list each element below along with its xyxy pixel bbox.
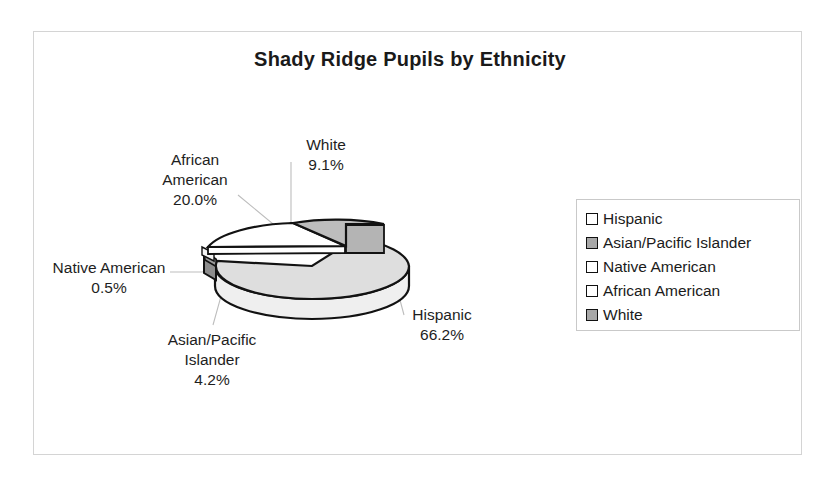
legend-label-african-american: African American — [603, 282, 720, 300]
data-label-asian-name-line1: Asian/Pacific — [142, 330, 282, 350]
data-label-hispanic-name: Hispanic — [392, 305, 492, 325]
data-label-white-pct: 9.1% — [281, 155, 371, 175]
data-label-hispanic: Hispanic 66.2% — [392, 305, 492, 345]
data-label-asian-pacific: Asian/Pacific Islander 4.2% — [142, 330, 282, 389]
legend-swatch-asian-pacific-islander-icon — [586, 237, 598, 249]
data-label-native-name: Native American — [26, 258, 192, 278]
legend-item-hispanic[interactable]: Hispanic — [586, 207, 799, 231]
data-label-african-pct: 20.0% — [145, 190, 245, 210]
legend-label-hispanic: Hispanic — [603, 210, 662, 228]
data-label-native-american: Native American 0.5% — [26, 258, 192, 298]
legend-item-asian-pacific-islander[interactable]: Asian/Pacific Islander — [586, 231, 799, 255]
data-label-african-name-line1: African — [145, 150, 245, 170]
legend-swatch-african-american-icon — [586, 285, 598, 297]
legend-label-asian-pacific-islander: Asian/Pacific Islander — [603, 234, 751, 252]
legend-label-native-american: Native American — [603, 258, 716, 276]
data-label-hispanic-pct: 66.2% — [392, 325, 492, 345]
data-label-african-american: African American 20.0% — [145, 150, 245, 209]
data-label-native-pct: 0.5% — [26, 278, 192, 298]
chart-title: Shady Ridge Pupils by Ethnicity — [60, 48, 760, 71]
data-label-white-name: White — [281, 135, 371, 155]
legend-swatch-hispanic-icon — [586, 213, 598, 225]
data-label-african-name-line2: American — [145, 170, 245, 190]
data-label-asian-name-line2: Islander — [142, 350, 282, 370]
legend-swatch-white-icon — [586, 309, 598, 321]
legend-item-white[interactable]: White — [586, 303, 799, 327]
data-label-asian-pct: 4.2% — [142, 370, 282, 390]
legend-swatch-native-american-icon — [586, 261, 598, 273]
legend-label-white: White — [603, 306, 643, 324]
legend-item-african-american[interactable]: African American — [586, 279, 799, 303]
chart-legend: Hispanic Asian/Pacific Islander Native A… — [576, 199, 800, 331]
legend-item-native-american[interactable]: Native American — [586, 255, 799, 279]
pie-chart-figure: Shady Ridge Pupils by Ethnicity — [0, 0, 838, 481]
data-label-white: White 9.1% — [281, 135, 371, 175]
